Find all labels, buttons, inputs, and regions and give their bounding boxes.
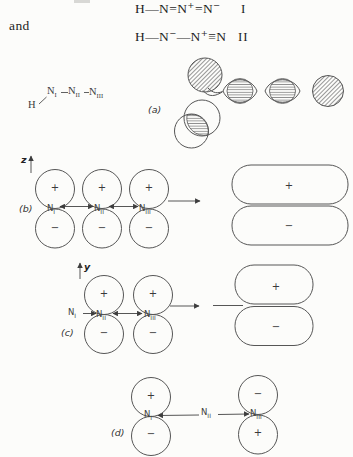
resonance-structure-i: H—N=N⁺=N⁻ <box>135 2 221 16</box>
skeleton-hydrogen: H <box>28 100 36 111</box>
hatched-hn-overlap-lens <box>187 114 209 135</box>
axis-n2-n3-segment <box>218 414 249 415</box>
orbital-sign: + <box>254 428 262 438</box>
orbital-sign: − <box>285 221 293 231</box>
axis-n1-n2-segment <box>158 415 199 416</box>
resonance-numeral-ii: II <box>238 30 249 43</box>
orbital-sign: + <box>98 183 106 193</box>
atom-symbol: N <box>68 85 76 96</box>
orbital-sign: − <box>51 223 59 233</box>
panel-label-b: (b) <box>19 204 32 214</box>
y-axis-label: y <box>84 262 90 272</box>
orbital-sign: + <box>51 183 59 193</box>
hatched-overlap-1 <box>227 79 253 104</box>
orbital-sign: − <box>98 223 106 233</box>
atom-symbol: N <box>89 86 97 97</box>
orbital-sign: − <box>254 389 262 399</box>
resonance-numeral-i: I <box>241 2 246 15</box>
conjunction-and: and <box>9 19 30 33</box>
c-label-n1: NI <box>68 308 76 319</box>
orbital-sign: + <box>147 391 155 401</box>
b-node-n1: NI <box>47 204 55 215</box>
atom-subscript: I <box>150 414 152 421</box>
atom-subscript: III <box>150 314 155 321</box>
z-axis-label: z <box>21 155 27 165</box>
skeleton-n2: NII <box>68 86 80 99</box>
orbital-sign: − <box>100 328 108 338</box>
orbital-sign: − <box>272 322 280 332</box>
atom-subscript: II <box>100 208 104 215</box>
atom-subscript: I <box>55 91 57 98</box>
h-n1-bond <box>39 97 47 104</box>
panel-a-orbital-overlap-diagram <box>175 58 344 148</box>
b-node-n3: NIII <box>139 204 151 215</box>
atom-subscript: III <box>97 92 104 99</box>
orbital-sign: + <box>149 289 157 299</box>
orbital-sign: − <box>147 429 155 439</box>
panel-label-a: (a) <box>148 105 161 115</box>
atom-symbol: N <box>47 85 55 96</box>
d-node-n1: NI <box>144 410 152 421</box>
panel-c-py-orbitals <box>80 263 313 354</box>
atom-subscript: III <box>256 413 261 420</box>
panel-label-c: (c) <box>61 328 74 338</box>
skeleton-n3: NIII <box>89 87 103 100</box>
orbital-sign: − <box>149 328 157 338</box>
figure-hn3-molecular-orbitals: and H—N=N⁺=N⁻ I H—N⁻—N⁺≡N II H NI NII NI… <box>0 0 353 457</box>
atom-subscript: II <box>76 91 80 98</box>
d-node-n3: NIII <box>250 409 262 420</box>
atom-subscript: III <box>145 208 150 215</box>
orbital-sign: + <box>100 289 108 299</box>
hatched-sp-lobe <box>188 58 222 92</box>
panel-b-pz-orbitals <box>31 156 348 248</box>
orbital-sign: + <box>285 181 293 191</box>
skeleton-n1: NI <box>47 86 57 99</box>
atom-subscript: I <box>74 312 76 319</box>
c-node-n2: NII <box>96 310 106 321</box>
hatched-overlap-2 <box>270 79 296 104</box>
orbital-sign: − <box>145 223 153 233</box>
orbital-sign: + <box>272 282 280 292</box>
c-node-n3: NIII <box>144 310 156 321</box>
panel-label-d: (d) <box>111 428 124 438</box>
b-node-n2: NII <box>94 204 104 215</box>
resonance-structure-ii: H—N⁻—N⁺≡N <box>135 30 226 44</box>
atom-subscript: II <box>207 412 211 419</box>
d-label-n2: NII <box>201 408 211 419</box>
hatched-terminal-lobe <box>313 76 344 107</box>
atom-subscript: I <box>53 208 55 215</box>
atom-subscript: II <box>102 314 106 321</box>
orbital-sign: + <box>145 183 153 193</box>
